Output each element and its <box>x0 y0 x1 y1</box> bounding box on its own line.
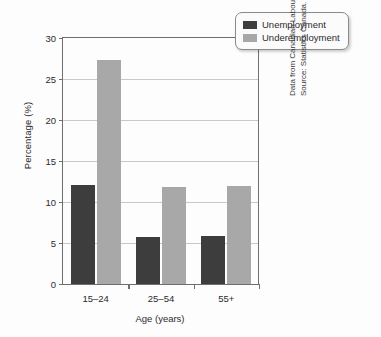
bar-group <box>71 38 121 284</box>
bar-underemployment-2 <box>227 186 251 284</box>
y-axis-tick-mark <box>59 202 63 203</box>
y-axis-tick-mark <box>59 284 63 285</box>
x-axis-tick-mark <box>194 284 195 289</box>
bar-group <box>201 38 251 284</box>
y-axis-tick-label: 25 <box>45 74 56 85</box>
bar-underemployment-1 <box>162 187 186 284</box>
y-axis-tick-mark <box>59 38 63 39</box>
source-note-line-1: Data from Canadian Labour Congress (2014… <box>287 0 298 96</box>
y-axis-tick-mark <box>59 161 63 162</box>
bar-unemployment-2 <box>201 236 225 284</box>
y-axis-title: Percentage (%) <box>22 76 33 196</box>
bar-underemployment-0 <box>97 60 121 284</box>
plot-area: 05101520253015–2425–5455+ <box>62 37 259 285</box>
x-axis-tick-mark <box>128 284 129 289</box>
y-axis-tick-mark <box>59 243 63 244</box>
y-axis-tick-label: 0 <box>51 279 56 290</box>
bar-unemployment-0 <box>71 185 95 284</box>
y-axis-tick-mark <box>59 79 63 80</box>
source-note-line-2: Source: Statistics Canada. <box>298 0 309 96</box>
legend-swatch-icon-unemployment <box>243 21 257 29</box>
plot-right-spine <box>258 37 259 284</box>
y-axis-tick-label: 15 <box>45 156 56 167</box>
y-axis-tick-label: 5 <box>51 238 56 249</box>
y-axis-tick-label: 30 <box>45 33 56 44</box>
x-axis-title: Age (years) <box>62 313 258 324</box>
bar-unemployment-1 <box>136 237 160 284</box>
x-axis-tick-label: 55+ <box>218 293 234 304</box>
legend-swatch-icon-underemployment <box>243 34 257 42</box>
y-axis-tick-mark <box>59 120 63 121</box>
x-axis-tick-mark <box>259 284 260 289</box>
bar-group <box>136 38 186 284</box>
x-axis-tick-label: 25–54 <box>148 293 174 304</box>
chart-figure: Percentage (%) 05101520253015–2425–5455+… <box>0 0 381 337</box>
x-axis-tick-label: 15–24 <box>82 293 108 304</box>
y-axis-tick-label: 20 <box>45 115 56 126</box>
source-note: Data from Canadian Labour Congress (2014… <box>287 0 309 96</box>
y-axis-tick-label: 10 <box>45 197 56 208</box>
